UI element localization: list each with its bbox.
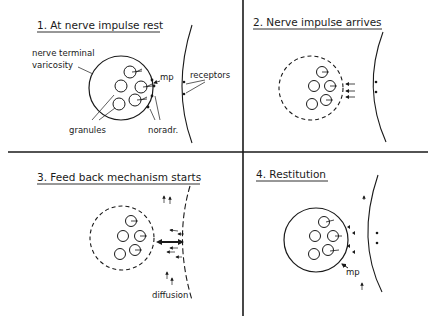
granules xyxy=(113,66,147,110)
panel-1-at-rest: 1. At nerve impulse rest mp xyxy=(32,19,231,143)
terminal-label-line2: varicosity xyxy=(32,60,73,70)
granules-label: granules xyxy=(69,125,106,135)
mp-label-restitution: mp xyxy=(346,267,360,277)
panel-2-title: 2. Nerve impulse arrives xyxy=(253,16,382,28)
panel-4-restitution: 4. Restitution mp xyxy=(256,168,382,292)
panel-3-title: 3. Feed back mechanism starts xyxy=(37,171,201,183)
noradr-label: noradr. xyxy=(148,125,178,135)
nerve-terminal-varicosity xyxy=(89,56,153,120)
panel-2-impulse-arrives: 2. Nerve impulse arrives xyxy=(253,16,386,142)
panel-3-feedback: 3. Feed back mechanism starts xyxy=(37,171,201,300)
panel-1-title: 1. At nerve impulse rest xyxy=(37,19,163,31)
nerve-terminal-varicosity xyxy=(284,208,348,272)
receptors-label: receptors xyxy=(190,70,231,80)
depolarized-terminal xyxy=(90,206,154,270)
mp-label: mp xyxy=(160,72,174,82)
panel-4-title: 4. Restitution xyxy=(256,168,326,180)
depolarized-terminal xyxy=(279,56,343,120)
diffusion-label: diffusion xyxy=(152,290,188,300)
diagram-canvas: 1. At nerve impulse rest mp xyxy=(0,0,428,316)
terminal-label-line1: nerve terminal xyxy=(32,48,95,58)
